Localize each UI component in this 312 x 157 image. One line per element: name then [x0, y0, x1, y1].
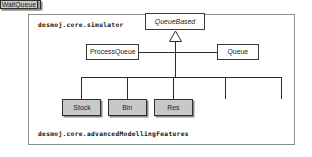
class-name-processqueue: ProcessQueue: [90, 48, 136, 55]
class-name-res: Res: [167, 104, 179, 111]
class-name-queuebased: QueueBased: [155, 18, 195, 25]
class-box-bin[interactable]: Bin: [108, 99, 147, 116]
class-box-queue[interactable]: Queue: [217, 44, 259, 60]
uml-class-diagram: desmoj.core.simulator desmoj.core.advanc…: [0, 0, 312, 157]
class-box-queuebased[interactable]: QueueBased: [145, 13, 205, 30]
class-box-processqueue[interactable]: ProcessQueue: [86, 44, 139, 60]
class-box-stock[interactable]: Stock: [62, 99, 101, 116]
package-frame: [28, 14, 295, 145]
class-box-waitqueue[interactable]: WaitQueue: [0, 0, 38, 9]
class-name-stock: Stock: [73, 104, 90, 111]
class-box-res[interactable]: Res: [154, 99, 193, 116]
class-name-bin: Bin: [123, 104, 133, 111]
class-name-waitqueue: WaitQueue: [2, 1, 36, 8]
class-name-queue: Queue: [228, 48, 249, 55]
package-label-simulator: desmoj.core.simulator: [38, 22, 124, 28]
package-label-advanced-modelling-features: desmoj.core.advancedModellingFeatures: [38, 131, 189, 137]
